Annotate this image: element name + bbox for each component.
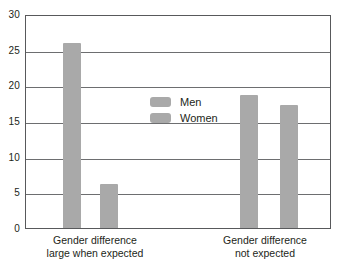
legend-swatch-icon-women: [150, 113, 171, 123]
y-tick-label-5: 5: [0, 188, 20, 198]
legend: Men Women: [150, 94, 218, 126]
x-category-line-2: not expected: [195, 247, 335, 260]
y-tick-label-0: 0: [0, 224, 20, 234]
x-category-line-1: Gender difference: [20, 234, 170, 247]
y-tick-label-10: 10: [0, 153, 20, 163]
x-category-label-large-when-expected: Gender difference large when expected: [20, 234, 170, 260]
x-category-label-not-expected: Gender difference not expected: [195, 234, 335, 260]
y-tick-label-30: 30: [0, 10, 20, 20]
legend-swatch-icon-men: [150, 97, 171, 107]
y-tick-label-20: 20: [0, 81, 20, 91]
y-tick-label-25: 25: [0, 46, 20, 56]
x-category-line-1: Gender difference: [195, 234, 335, 247]
legend-item-women: Women: [150, 110, 218, 126]
legend-label-men: Men: [180, 96, 201, 108]
bar-men-large-when-expected: [63, 43, 81, 229]
x-category-line-2: large when expected: [20, 247, 170, 260]
bar-chart: 30 25 20 15 10 5 0 Men Women Gender diff…: [0, 0, 338, 275]
bar-women-large-when-expected: [100, 184, 118, 228]
legend-item-men: Men: [150, 94, 218, 110]
legend-label-women: Women: [180, 112, 218, 124]
bar-women-not-expected: [280, 105, 298, 228]
bar-men-not-expected: [240, 95, 258, 228]
y-tick-label-15: 15: [0, 117, 20, 127]
